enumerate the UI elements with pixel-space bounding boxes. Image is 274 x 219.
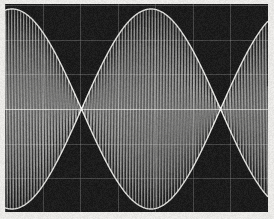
- crt-screen: [5, 4, 268, 212]
- oscilloscope-screenshot: [0, 0, 274, 219]
- waveform-canvas: [5, 4, 268, 212]
